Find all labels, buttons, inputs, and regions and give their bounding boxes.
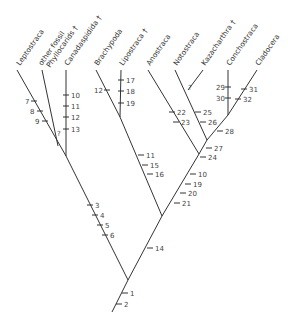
character-number: 16 (155, 171, 164, 179)
character-number: 2 (124, 301, 128, 309)
character-number: 13 (71, 126, 80, 134)
character-number: 26 (208, 119, 217, 127)
character-number: 19 (126, 100, 135, 108)
branch-line (17, 70, 66, 156)
character-number: 9 (35, 118, 39, 126)
character-number: 3 (95, 202, 99, 210)
tree-branches (17, 70, 257, 312)
character-number: ? (188, 84, 192, 92)
character-number: 15 (150, 162, 159, 170)
character-number: 28 (225, 128, 234, 136)
character-number: ? (57, 130, 61, 138)
character-number: 6 (110, 232, 115, 240)
character-number: 17 (126, 77, 135, 85)
character-number: 30 (216, 95, 225, 103)
character-ticks (31, 80, 247, 304)
branch-line (199, 140, 207, 154)
character-number: 14 (155, 245, 164, 253)
character-number: 21 (182, 200, 191, 208)
character-number: 27 (214, 145, 223, 153)
character-number: 4 (100, 212, 105, 220)
branch-line (66, 156, 128, 280)
branch-line (42, 70, 58, 146)
character-number: 24 (208, 154, 217, 162)
character-number: 32 (243, 96, 252, 104)
character-number: 1 (130, 290, 134, 298)
character-number: 10 (71, 92, 80, 100)
character-number: 29 (216, 84, 225, 92)
character-number: 19 (193, 181, 202, 189)
cladogram: Leptostracaother fossilPhyllocarids †Can… (0, 0, 288, 323)
branch-line (175, 70, 207, 140)
character-number: 12 (71, 114, 80, 122)
taxon-label-cladocera: Cladocera (253, 32, 281, 67)
character-number: 8 (30, 108, 34, 116)
character-number: 11 (146, 152, 155, 160)
character-number: 23 (181, 119, 190, 127)
taxon-label-notostraca: Notostraca (171, 30, 201, 67)
character-number: 7 (25, 98, 29, 106)
character-number: 12 (94, 87, 103, 95)
character-number: 5 (105, 222, 109, 230)
taxon-label-anostraca: Anostraca (144, 32, 172, 67)
branch-line (120, 70, 121, 117)
character-number: 22 (177, 109, 186, 117)
taxon-labels: Leptostracaother fossilPhyllocarids †Can… (14, 13, 281, 69)
character-number: 25 (203, 109, 212, 117)
character-number: 20 (188, 190, 197, 198)
character-number: 18 (126, 88, 135, 96)
character-number: 11 (71, 103, 80, 111)
character-number: 31 (249, 86, 258, 94)
character-number: 10 (198, 171, 207, 179)
character-numbers: 1234567891011121312171819111516222325262… (25, 77, 258, 309)
